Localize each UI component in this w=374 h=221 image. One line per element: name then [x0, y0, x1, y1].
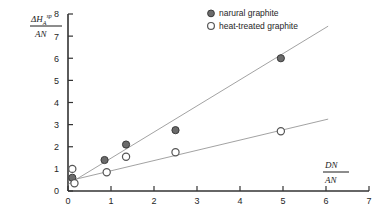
x-tick-label-0: 0	[65, 196, 70, 206]
x-tick-label-4: 4	[237, 196, 242, 206]
y-axis-title-numerator-text: ΔH	[30, 14, 43, 24]
legend-marker-1	[208, 23, 215, 30]
x-axis-title-numerator: DN	[324, 160, 338, 170]
y-axis-tick-labels: 012345678	[54, 9, 59, 196]
data-point-series-1-1	[71, 180, 78, 187]
x-tick-label-7: 7	[366, 196, 371, 206]
legend-marker-0	[208, 10, 215, 17]
legend-label-1: heat-treated graphite	[219, 21, 298, 31]
x-tick-label-3: 3	[194, 196, 199, 206]
x-tick-label-6: 6	[323, 196, 328, 206]
data-point-series-0-1	[101, 156, 108, 163]
data-point-series-1-0	[69, 165, 76, 172]
y-axis-title-numerator-superscript: sp	[46, 13, 51, 19]
y-tick-label-7: 7	[54, 32, 59, 42]
y-tick-label-5: 5	[54, 76, 59, 86]
y-tick-label-2: 2	[54, 142, 59, 152]
data-point-series-1-3	[122, 153, 129, 160]
data-point-series-1-2	[103, 169, 110, 176]
scatter-chart: 01234567 012345678 ΔHAsp AN DN AN narura…	[0, 0, 374, 221]
y-tick-label-8: 8	[54, 9, 59, 19]
data-point-series-0-2	[122, 141, 129, 148]
data-point-series-1-5	[277, 128, 284, 135]
x-tick-label-1: 1	[108, 196, 113, 206]
data-point-series-0-3	[172, 127, 179, 134]
x-axis-title-denominator: AN	[324, 175, 337, 185]
y-tick-label-4: 4	[54, 98, 59, 108]
y-tick-label-1: 1	[54, 164, 59, 174]
data-point-series-1-4	[172, 149, 179, 156]
y-axis-title-numerator-subscript: A	[42, 20, 47, 26]
y-axis-title-denominator: AN	[34, 29, 47, 39]
x-tick-label-5: 5	[280, 196, 285, 206]
x-tick-label-2: 2	[151, 196, 156, 206]
y-tick-label-0: 0	[54, 186, 59, 196]
legend-label-0: narural graphite	[219, 8, 279, 18]
data-point-series-0-4	[277, 55, 284, 62]
y-tick-label-6: 6	[54, 54, 59, 64]
y-tick-label-3: 3	[54, 120, 59, 130]
